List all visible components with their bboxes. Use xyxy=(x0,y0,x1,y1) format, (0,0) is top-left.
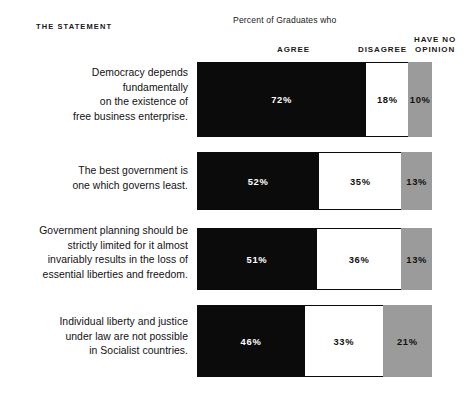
statement-column-header: THE STATEMENT xyxy=(36,22,112,31)
segment-agree-value: 72% xyxy=(271,94,292,105)
statement-text: The best government isone which governs … xyxy=(2,164,188,193)
segment-agree-value: 52% xyxy=(248,176,269,187)
segment-no-opinion: 13% xyxy=(401,152,432,210)
segment-disagree-value: 33% xyxy=(333,336,354,347)
segment-agree: 72% xyxy=(197,62,366,137)
legend-label-no-opinion: HAVE NO OPINION xyxy=(414,35,456,54)
statement-text: Democracy dependsfundamentallyon the exi… xyxy=(2,66,188,124)
segment-disagree: 18% xyxy=(366,62,408,137)
segment-disagree-value: 35% xyxy=(350,176,371,187)
stacked-bar: 52%35%13% xyxy=(197,152,432,210)
segment-disagree: 35% xyxy=(319,152,401,210)
segment-no-opinion-value: 10% xyxy=(410,94,431,105)
statement-text: Individual liberty and justiceunder law … xyxy=(2,315,188,359)
stacked-bar: 51%36%13% xyxy=(197,228,432,290)
legend-label-agree: AGREE xyxy=(277,45,310,55)
segment-disagree-value: 18% xyxy=(377,94,398,105)
legend-label-no-opinion-line1: HAVE NO xyxy=(414,35,456,44)
segment-agree-value: 51% xyxy=(246,254,267,265)
segment-agree-value: 46% xyxy=(241,336,262,347)
stacked-bar: 72%18%10% xyxy=(197,62,432,137)
legend-label-disagree: DISAGREE xyxy=(358,45,407,55)
chart-supertitle: Percent of Graduates who xyxy=(233,15,336,25)
stacked-bar-chart: THE STATEMENT Percent of Graduates who A… xyxy=(0,0,471,393)
segment-no-opinion-value: 13% xyxy=(406,176,427,187)
segment-no-opinion: 13% xyxy=(401,228,432,290)
segment-no-opinion-value: 21% xyxy=(397,336,418,347)
segment-no-opinion-value: 13% xyxy=(406,254,427,265)
legend-label-no-opinion-line2: OPINION xyxy=(415,45,455,54)
segment-agree: 51% xyxy=(197,228,317,290)
segment-agree: 52% xyxy=(197,152,319,210)
segment-no-opinion: 21% xyxy=(383,305,432,377)
segment-disagree: 33% xyxy=(305,305,383,377)
stacked-bar: 46%33%21% xyxy=(197,305,432,377)
segment-agree: 46% xyxy=(197,305,305,377)
statement-text: Government planning should bestrictly li… xyxy=(2,224,188,282)
segment-disagree: 36% xyxy=(317,228,402,290)
segment-disagree-value: 36% xyxy=(349,254,370,265)
segment-no-opinion: 10% xyxy=(408,62,432,137)
